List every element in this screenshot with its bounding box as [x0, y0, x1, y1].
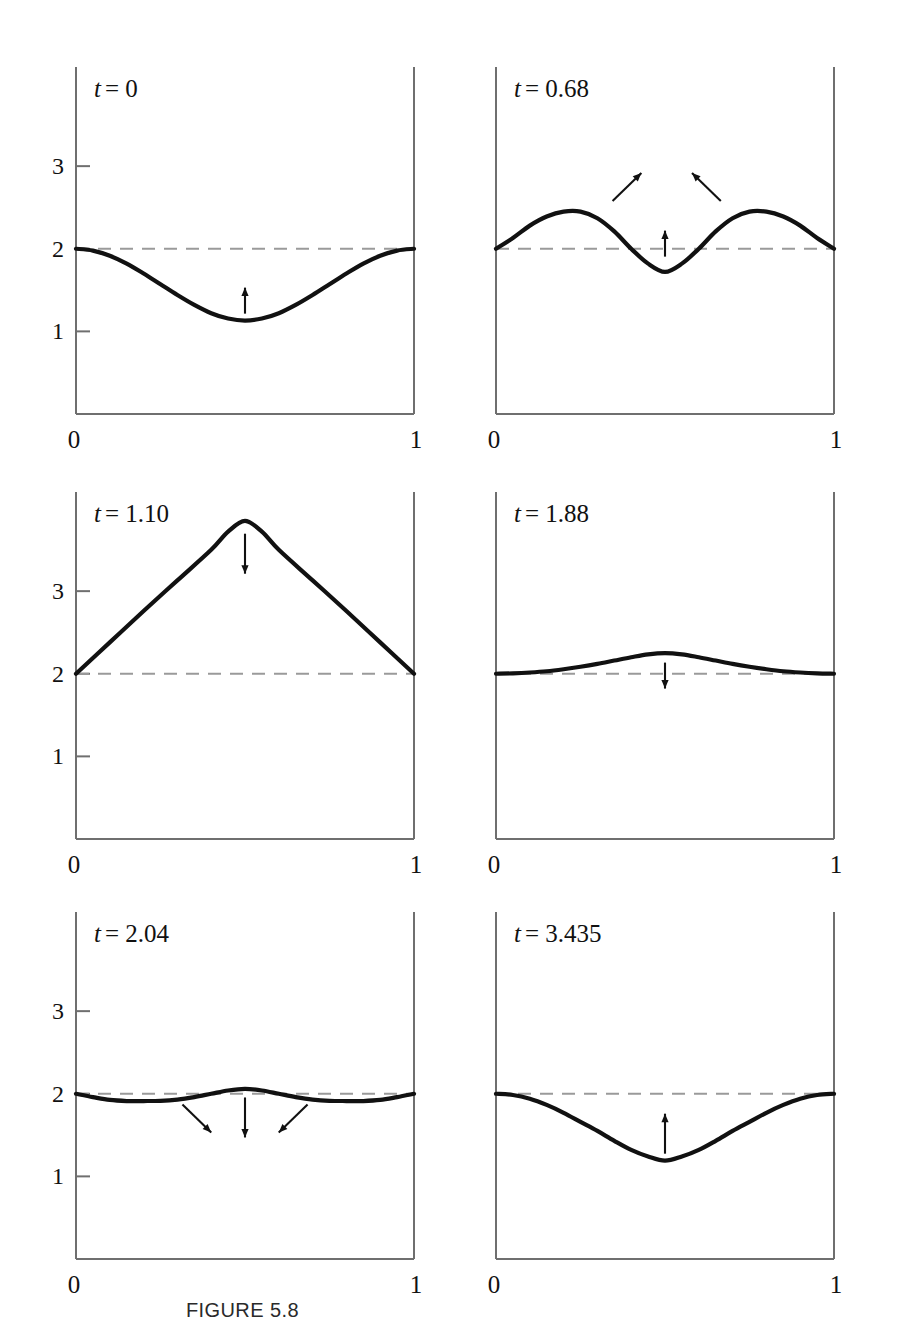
- y-tick-label: 2: [52, 661, 64, 687]
- y-tick-label: 1: [52, 1163, 64, 1189]
- time-label: t= 1.88: [514, 500, 589, 527]
- panel-3: 01t= 1.88: [440, 480, 870, 885]
- panel-0: 123x01t= 0: [20, 55, 450, 460]
- y-axis-label: x: [64, 480, 76, 483]
- x-tick-label-max: 1: [830, 851, 843, 878]
- motion-arrow-0: [182, 1104, 211, 1132]
- x-tick-label-min: 0: [488, 426, 501, 453]
- motion-arrow-1: [661, 231, 668, 257]
- arrow-head: [661, 680, 668, 689]
- time-label: t= 2.04: [94, 920, 170, 947]
- figure-root: 123x01t= 0 01t= 0.68 123x01t= 1.10 01t= …: [0, 0, 909, 1321]
- plot-2: 123x01t= 1.10: [20, 480, 450, 885]
- motion-arrow-0: [241, 534, 248, 574]
- plot-5: 01t= 3.435: [440, 900, 870, 1305]
- plot-4: 123x01t= 2.04: [20, 900, 450, 1305]
- x-tick-label-min: 0: [68, 1271, 81, 1298]
- plot-3: 01t= 1.88: [440, 480, 870, 885]
- x-tick-label-min: 0: [68, 426, 81, 453]
- x-tick-label-max: 1: [410, 851, 423, 878]
- x-tick-label-max: 1: [410, 1271, 423, 1298]
- arrow-head: [241, 1129, 248, 1138]
- y-axis-label: x: [64, 900, 76, 903]
- x-tick-label-max: 1: [410, 426, 423, 453]
- time-label: t= 1.10: [94, 500, 169, 527]
- y-tick-label: 1: [52, 743, 64, 769]
- y-tick-label: 3: [52, 998, 64, 1024]
- motion-arrow-2: [279, 1104, 308, 1132]
- x-tick-label-max: 1: [830, 1271, 843, 1298]
- x-tick-label-min: 0: [488, 1271, 501, 1298]
- time-label: t= 0: [94, 75, 138, 102]
- time-label: t= 3.435: [514, 920, 602, 947]
- x-tick-label-max: 1: [830, 426, 843, 453]
- motion-arrow-1: [241, 1097, 248, 1137]
- motion-arrow-0: [661, 663, 668, 689]
- motion-arrow-0: [241, 288, 248, 314]
- plot-1: 01t= 0.68: [440, 55, 870, 460]
- y-tick-label: 3: [52, 153, 64, 179]
- arrow-head: [241, 288, 248, 297]
- motion-arrow-0: [661, 1114, 668, 1154]
- y-tick-label: 2: [52, 236, 64, 262]
- time-label: t= 0.68: [514, 75, 589, 102]
- panel-2: 123x01t= 1.10: [20, 480, 450, 885]
- arrow-head: [241, 565, 248, 574]
- y-tick-label: 2: [52, 1081, 64, 1107]
- y-axis-label: x: [64, 55, 76, 58]
- motion-arrow-2: [692, 173, 721, 201]
- y-tick-label: 1: [52, 318, 64, 344]
- plot-0: 123x01t= 0: [20, 55, 450, 460]
- motion-arrow-0: [613, 173, 642, 201]
- figure-caption: FIGURE 5.8: [186, 1299, 299, 1321]
- panel-1: 01t= 0.68: [440, 55, 870, 460]
- panel-5: 01t= 3.435: [440, 900, 870, 1305]
- x-tick-label-min: 0: [488, 851, 501, 878]
- y-tick-label: 3: [52, 578, 64, 604]
- panel-4: 123x01t= 2.04: [20, 900, 450, 1305]
- arrow-head: [661, 1114, 668, 1123]
- arrow-head: [661, 231, 668, 240]
- x-tick-label-min: 0: [68, 851, 81, 878]
